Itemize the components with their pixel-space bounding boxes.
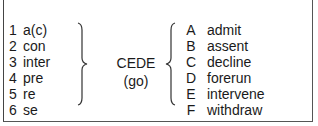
prefix-item: 6se xyxy=(9,102,50,118)
prefix-number: 3 xyxy=(9,54,23,70)
meaning-item: Dforerun xyxy=(180,70,265,86)
meaning-item: Cdecline xyxy=(180,54,265,70)
meaning-letter: B xyxy=(180,38,202,54)
prefix-text: se xyxy=(23,102,38,118)
meaning-text: assent xyxy=(207,38,248,54)
meaning-item: Aadmit xyxy=(180,22,265,38)
prefix-item: 4pre xyxy=(9,70,50,86)
left-brace-icon xyxy=(163,22,177,106)
meaning-text: forerun xyxy=(207,70,251,86)
prefix-item: 2con xyxy=(9,38,50,54)
root-block: CEDE (go) xyxy=(106,54,166,90)
prefix-number: 5 xyxy=(9,86,23,102)
prefix-item: 3inter xyxy=(9,54,50,70)
prefix-number: 6 xyxy=(9,102,23,118)
meaning-letter: E xyxy=(180,86,202,102)
meaning-letter: A xyxy=(180,22,202,38)
meaning-text: admit xyxy=(207,22,241,38)
prefix-number: 1 xyxy=(9,22,23,38)
meaning-letter: D xyxy=(180,70,202,86)
meaning-list: Aadmit Bassent Cdecline Dforerun Einterv… xyxy=(180,22,265,118)
prefix-text: pre xyxy=(23,70,43,86)
prefix-text: re xyxy=(23,86,35,102)
meaning-text: withdraw xyxy=(207,102,262,118)
root-word: CEDE xyxy=(106,54,166,72)
meaning-letter: C xyxy=(180,54,202,70)
prefix-item: 5re xyxy=(9,86,50,102)
prefix-number: 4 xyxy=(9,70,23,86)
root-meaning: (go) xyxy=(106,72,166,90)
prefix-number: 2 xyxy=(9,38,23,54)
prefix-text: con xyxy=(23,38,46,54)
right-brace-icon xyxy=(76,22,90,106)
meaning-item: Fwithdraw xyxy=(180,102,265,118)
meaning-item: Bassent xyxy=(180,38,265,54)
meaning-text: intervene xyxy=(207,86,265,102)
prefix-text: a(c) xyxy=(23,22,47,38)
prefix-item: 1a(c) xyxy=(9,22,50,38)
meaning-letter: F xyxy=(180,102,202,118)
prefix-text: inter xyxy=(23,54,50,70)
meaning-text: decline xyxy=(207,54,251,70)
prefix-list: 1a(c) 2con 3inter 4pre 5re 6se xyxy=(9,22,50,118)
meaning-item: Eintervene xyxy=(180,86,265,102)
